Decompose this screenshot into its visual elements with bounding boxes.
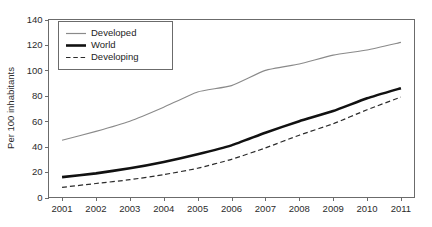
series-line-world (62, 88, 401, 177)
y-tick-label: 60 (32, 116, 43, 127)
y-tick-label: 140 (27, 14, 43, 25)
x-axis-ticks: 2001200220032004200520062007200820092010… (51, 198, 411, 214)
y-axis-title: Per 100 inhabitants (5, 67, 16, 149)
x-tick-label: 2007 (255, 203, 276, 214)
x-tick-label: 2002 (85, 203, 106, 214)
y-tick-label: 120 (27, 39, 43, 50)
x-tick-label: 2001 (51, 203, 72, 214)
y-tick-label: 0 (37, 192, 42, 203)
y-tick-label: 20 (32, 166, 43, 177)
x-tick-label: 2009 (323, 203, 344, 214)
chart-canvas: 020406080100120140 200120022003200420052… (0, 0, 432, 227)
x-tick-label: 2008 (289, 203, 310, 214)
x-tick-label: 2005 (187, 203, 208, 214)
x-tick-label: 2004 (153, 203, 174, 214)
legend-label-world: World (91, 39, 116, 50)
y-tick-label: 40 (32, 141, 43, 152)
x-tick-label: 2006 (221, 203, 242, 214)
legend-label-developed: Developed (91, 27, 136, 38)
series-line-developing (62, 97, 401, 187)
legend-label-developing: Developing (91, 51, 139, 62)
x-tick-label: 2010 (356, 203, 377, 214)
y-tick-label: 80 (32, 90, 43, 101)
x-tick-label: 2011 (391, 203, 411, 214)
x-tick-label: 2003 (119, 203, 140, 214)
y-axis-ticks: 020406080100120140 (27, 14, 49, 203)
line-chart: 020406080100120140 200120022003200420052… (0, 0, 432, 227)
legend: Developed World Developing (59, 22, 173, 70)
y-tick-label: 100 (27, 65, 43, 76)
